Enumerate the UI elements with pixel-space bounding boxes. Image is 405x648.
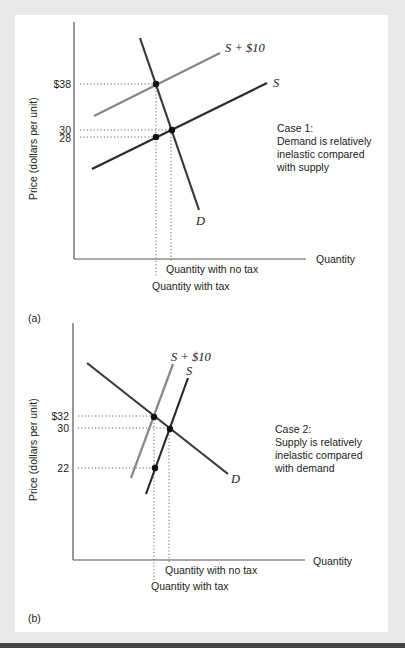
case-line3-b: with demand [274,462,335,474]
point-b-22 [152,465,158,471]
qty-tax-label-b: Quantity with tax [151,580,229,592]
point-a-30 [169,127,175,133]
point-a-28 [153,134,159,140]
tick-b-22: 22 [57,462,69,474]
label-taxed-supply-b: S + $10 [171,350,211,364]
figure-svg: Price (dollars per unit) Quantity $38 30… [0,0,405,648]
qty-no-tax-label-a: Quantity with no tax [166,263,259,275]
chart-a: Price (dollars per unit) Quantity $38 30… [27,22,372,324]
demand-curve-b [87,363,228,474]
point-a-38 [153,81,159,87]
point-b-30 [167,426,173,432]
tick-a-38: $38 [53,78,71,90]
case-line1-a: Demand is relatively [277,135,372,147]
case-line3-a: with supply [276,161,330,173]
tick-a-28: 28 [59,132,71,144]
label-demand-a: D [195,214,205,228]
case-line2-b: inelastic compared [275,449,363,461]
guide-lines-a [80,84,172,277]
tick-b-32: $32 [51,410,69,422]
label-demand-b: D [230,472,240,486]
case-title-b: Case 2: [275,423,311,435]
label-taxed-supply-a: S + $10 [225,41,265,55]
point-b-32 [151,414,157,420]
y-axis-label-a: Price (dollars per unit) [27,97,39,200]
label-supply-b: S [186,364,193,378]
guide-lines-b [78,416,171,580]
tick-b-30: 30 [57,422,69,434]
demand-curve-a [140,38,199,210]
case-line2-a: inelastic compared [277,148,365,160]
label-supply-a: S [273,76,280,90]
panel-label-b: (b) [28,612,41,624]
chart-b: Price (dollars per unit) Quantity $32 30… [27,323,363,624]
panel-label-a: (a) [28,312,41,324]
supply-curve-b [146,378,188,494]
qty-no-tax-label-b: Quantity with no tax [165,564,258,576]
x-axis-label-b: Quantity [313,555,353,567]
qty-tax-label-a: Quantity with tax [152,280,230,292]
y-axis-label-b: Price (dollars per unit) [27,398,39,501]
x-axis-label-a: Quantity [316,253,356,265]
taxed-supply-curve-b [131,364,173,478]
case-line1-b: Supply is relatively [275,436,363,448]
case-title-a: Case 1: [277,122,313,134]
